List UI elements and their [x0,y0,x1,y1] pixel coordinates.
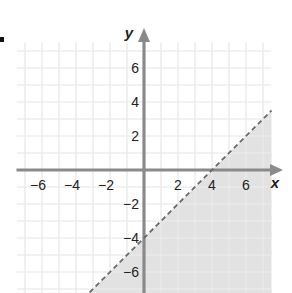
y-tick-label: 4 [131,94,139,110]
y-tick-label: −4 [123,230,139,246]
x-tick-label: −4 [64,177,80,193]
x-tick-label: −2 [98,177,114,193]
y-axis-label: y [124,24,134,41]
x-tick-label: 2 [174,177,182,193]
y-tick-label: 2 [131,128,139,144]
x-axis-label: x [270,174,280,191]
x-tick-label: 6 [242,177,250,193]
y-tick-label: −6 [123,264,139,280]
inequality-graph: −6−4−2246 642−2−4−6 x y [0,0,292,293]
x-tick-label: 4 [208,177,216,193]
x-tick-label: −6 [30,177,46,193]
y-tick-label: −2 [123,196,139,212]
y-axis-arrow-icon [138,28,150,42]
y-tick-label: 6 [131,60,139,76]
